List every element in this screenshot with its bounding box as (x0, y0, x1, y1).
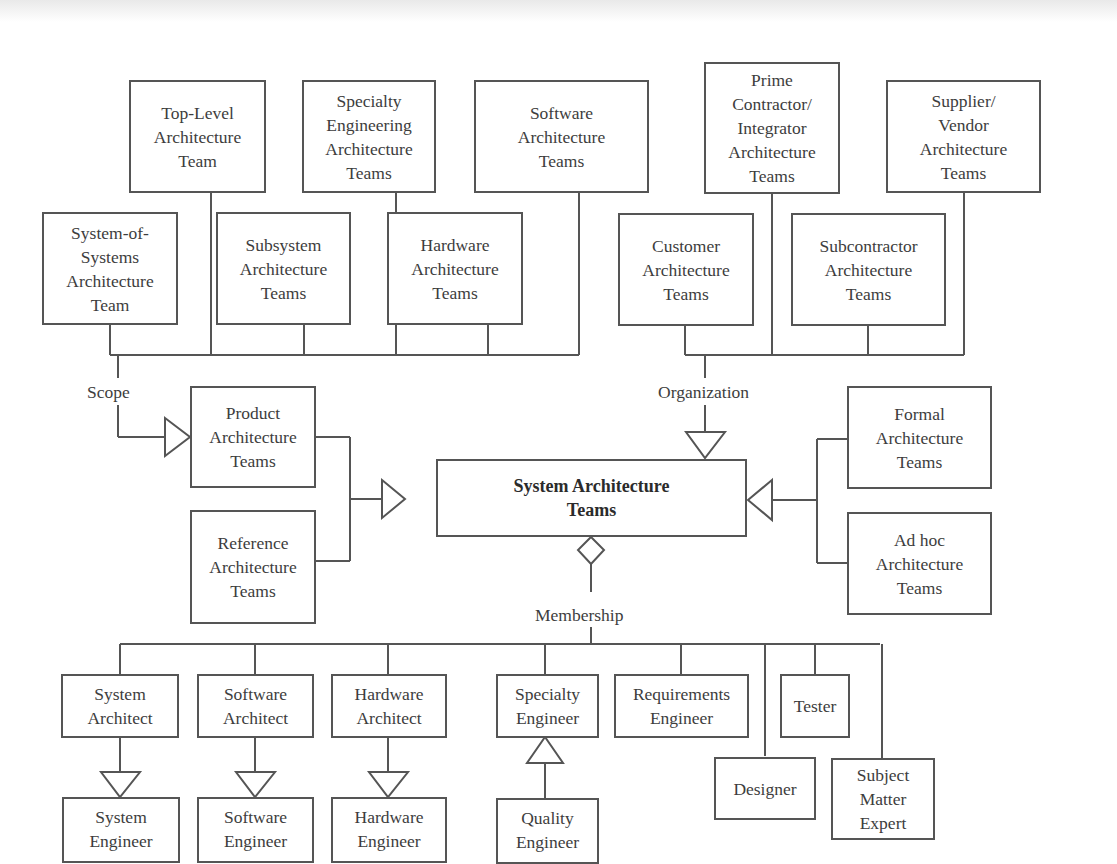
specialty-engineer-box: Specialty Engineer (496, 674, 599, 738)
subject-matter-expert-box: Subject Matter Expert (831, 758, 935, 840)
subcontractor-architecture-teams-box: Subcontractor Architecture Teams (791, 213, 946, 326)
formal-architecture-teams-box: Formal Architecture Teams (847, 386, 992, 489)
membership-label: Membership (532, 604, 626, 626)
reference-architecture-teams-box: Reference Architecture Teams (190, 510, 316, 624)
ad-hoc-architecture-teams-box: Ad hoc Architecture Teams (847, 512, 992, 615)
designer-box: Designer (714, 757, 816, 820)
tester-box: Tester (780, 674, 850, 738)
quality-engineer-box: Quality Engineer (496, 798, 599, 864)
scope-label: Scope (84, 381, 133, 403)
hardware-engineer-box: Hardware Engineer (331, 797, 447, 863)
supplier-vendor-architecture-teams-box: Supplier/ Vendor Architecture Teams (886, 80, 1041, 193)
customer-architecture-teams-box: Customer Architecture Teams (618, 213, 754, 326)
specialty-engineering-architecture-teams-box: Specialty Engineering Architecture Teams (302, 80, 436, 193)
system-engineer-box: System Engineer (62, 797, 180, 863)
top-level-architecture-team-box: Top-Level Architecture Team (129, 80, 266, 193)
software-architecture-teams-box: Software Architecture Teams (474, 80, 649, 193)
subsystem-architecture-teams-box: Subsystem Architecture Teams (216, 212, 351, 325)
software-engineer-box: Software Engineer (197, 797, 314, 863)
requirements-engineer-box: Requirements Engineer (614, 674, 749, 738)
software-architect-box: Software Architect (197, 674, 314, 738)
hardware-architecture-teams-box: Hardware Architecture Teams (387, 212, 523, 325)
hardware-architect-box: Hardware Architect (331, 674, 447, 738)
system-of-systems-architecture-team-box: System-of- Systems Architecture Team (42, 212, 178, 325)
system-architect-box: System Architect (61, 674, 179, 738)
organization-label: Organization (655, 381, 752, 403)
product-architecture-teams-box: Product Architecture Teams (190, 386, 316, 488)
page-header-fade (0, 0, 1117, 22)
system-architecture-teams-box: System Architecture Teams (436, 459, 747, 537)
prime-contractor-integrator-architecture-teams-box: Prime Contractor/ Integrator Architectur… (704, 62, 840, 194)
